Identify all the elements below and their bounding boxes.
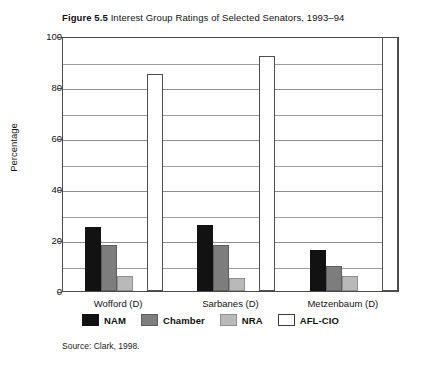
gridline-90 bbox=[63, 64, 398, 65]
bar-nam-2 bbox=[310, 250, 326, 291]
legend-item-nra: NRA bbox=[220, 314, 263, 326]
gridline-70 bbox=[63, 115, 398, 116]
legend-swatch-icon-nam bbox=[82, 314, 99, 326]
gridline-50 bbox=[63, 166, 398, 167]
legend-label-nra: NRA bbox=[242, 315, 263, 326]
y-tick-mark-0 bbox=[57, 292, 62, 293]
bar-nra-2 bbox=[342, 276, 358, 291]
y-tick-label-100: 100 bbox=[16, 32, 62, 42]
y-tick-label-60: 60 bbox=[16, 134, 62, 144]
legend-item-aflcio: AFL-CIO bbox=[278, 314, 339, 326]
bar-chamber-0 bbox=[101, 245, 117, 291]
x-tick-label-1: Sarbanes (D) bbox=[174, 298, 286, 309]
plot-area bbox=[62, 37, 399, 292]
y-tick-label-40: 40 bbox=[16, 185, 62, 195]
legend-swatch-icon-nra bbox=[220, 314, 237, 326]
gridline-40 bbox=[63, 191, 398, 192]
figure-title-text: Interest Group Ratings of Selected Senat… bbox=[111, 12, 345, 23]
legend-label-chamber: Chamber bbox=[163, 315, 205, 326]
bar-nam-1 bbox=[197, 225, 213, 291]
bar-aflcio-1 bbox=[259, 56, 275, 291]
figure-source: Source: Clark, 1998. bbox=[62, 341, 139, 351]
gridline-30 bbox=[63, 217, 398, 218]
y-axis: Percentage 020406080100 bbox=[0, 37, 62, 293]
bar-chamber-2 bbox=[326, 266, 342, 292]
x-tick-label-2: Metzenbaum (D) bbox=[287, 298, 399, 309]
gridline-80 bbox=[63, 89, 398, 90]
gridline-20 bbox=[63, 242, 398, 243]
y-tick-label-0: 0 bbox=[16, 287, 62, 297]
legend-item-chamber: Chamber bbox=[141, 314, 205, 326]
gridline-60 bbox=[63, 140, 398, 141]
legend-swatch-icon-aflcio bbox=[278, 314, 295, 326]
legend-label-aflcio: AFL-CIO bbox=[300, 315, 339, 326]
bar-chamber-1 bbox=[213, 245, 229, 291]
chart-legend: NAMChamberNRAAFL-CIO bbox=[82, 314, 354, 326]
y-tick-label-20: 20 bbox=[16, 236, 62, 246]
x-tick-label-0: Wofford (D) bbox=[62, 298, 174, 309]
figure-title: Figure 5.5 Interest Group Ratings of Sel… bbox=[62, 12, 345, 24]
bar-aflcio-2 bbox=[382, 37, 398, 291]
bar-nra-0 bbox=[117, 276, 133, 291]
bar-aflcio-0 bbox=[147, 74, 163, 291]
figure-container: Figure 5.5 Interest Group Ratings of Sel… bbox=[0, 0, 443, 368]
legend-label-nam: NAM bbox=[104, 315, 126, 326]
figure-number: Figure 5.5 bbox=[62, 12, 108, 23]
legend-swatch-icon-chamber bbox=[141, 314, 158, 326]
legend-item-nam: NAM bbox=[82, 314, 126, 326]
bar-nam-0 bbox=[85, 227, 101, 291]
y-tick-label-80: 80 bbox=[16, 83, 62, 93]
bar-nra-1 bbox=[229, 278, 245, 291]
y-axis-title: Percentage bbox=[8, 78, 19, 218]
